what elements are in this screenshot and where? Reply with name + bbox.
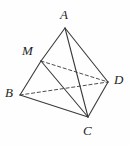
vertex-label-M: M (22, 44, 33, 57)
vertex-label-B: B (5, 86, 13, 99)
edge-AM (41, 28, 65, 61)
edge-layer (20, 28, 108, 117)
edge-CD (88, 82, 108, 117)
edge-BC (20, 95, 88, 117)
vertex-label-D: D (114, 73, 123, 86)
geometry-figure: A M B C D (0, 0, 130, 146)
vertex-label-A: A (60, 8, 68, 21)
edge-MB (20, 61, 41, 95)
vertex-label-C: C (83, 124, 92, 137)
